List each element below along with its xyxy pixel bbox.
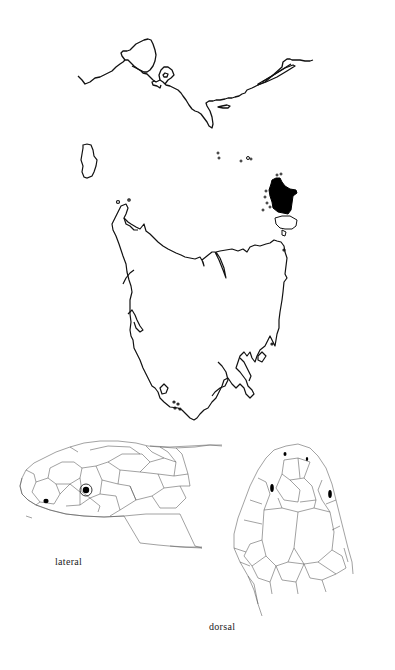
- lateral-neck-lines: [150, 445, 222, 547]
- lateral-head-illustration: [20, 441, 222, 548]
- figure: [0, 0, 395, 670]
- lateral-label: lateral: [55, 556, 82, 567]
- map-mainland-coast: [78, 39, 313, 128]
- dorsal-head-illustration: [234, 444, 353, 616]
- map-small-islands: [217, 152, 282, 176]
- map-king-island: [81, 144, 97, 178]
- dorsal-label: dorsal: [209, 621, 235, 632]
- map-flinders-island: [262, 178, 297, 236]
- map-tasmania: [112, 199, 287, 420]
